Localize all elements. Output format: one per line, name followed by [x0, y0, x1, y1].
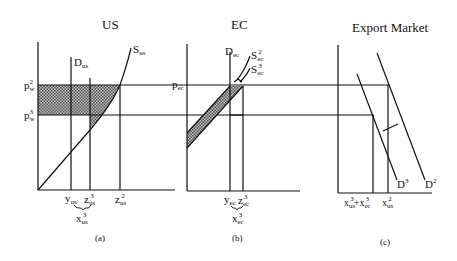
- label-demand-us: Dus: [74, 57, 88, 70]
- panel-us: [38, 42, 175, 190]
- label-x3-sum: xus3+xec3: [344, 196, 369, 210]
- panel-b-title: EC: [231, 18, 248, 31]
- panel-a-title: US: [102, 18, 119, 31]
- caption-a: (a): [95, 234, 105, 243]
- label-x3-us: xus3: [76, 212, 86, 226]
- label-x2-us-c: xus2: [382, 196, 392, 210]
- label-z3-ec: zec3: [238, 194, 248, 208]
- ec-s2-pointer: [237, 56, 250, 80]
- ec-supply3: [187, 86, 243, 148]
- label-s3-ec: Sec3: [251, 63, 262, 77]
- export-demand-d2: [377, 53, 425, 180]
- label-pw2: pw2: [24, 79, 33, 93]
- ec-supply2: [187, 86, 230, 133]
- caption-b: (b): [232, 234, 243, 243]
- label-demand-ec: Dec: [225, 46, 239, 59]
- panel-ec: [187, 44, 300, 191]
- label-z2-us: zus2: [115, 193, 125, 207]
- label-d3: D3: [397, 178, 408, 190]
- panel-c-title: Export Market: [352, 21, 428, 34]
- ec-s3-pointer: [240, 68, 250, 82]
- label-supply-us: Sus: [133, 44, 145, 57]
- panel-export-market: [338, 45, 432, 193]
- label-p-ec: pec: [172, 79, 184, 92]
- label-x3-ec: xec3: [232, 212, 242, 226]
- label-d2: D2: [425, 178, 436, 190]
- shift-arrow: [383, 124, 398, 131]
- diagram-canvas: [0, 0, 457, 261]
- label-y-ec: yec: [224, 194, 236, 207]
- ec-angle-marker: [234, 79, 242, 82]
- label-z3-us: zus3: [84, 193, 94, 207]
- label-y-us: yus: [65, 193, 77, 206]
- label-pw3: pw3: [24, 109, 33, 123]
- label-s2-ec: Sec2: [251, 49, 262, 63]
- caption-c: (c): [380, 238, 390, 247]
